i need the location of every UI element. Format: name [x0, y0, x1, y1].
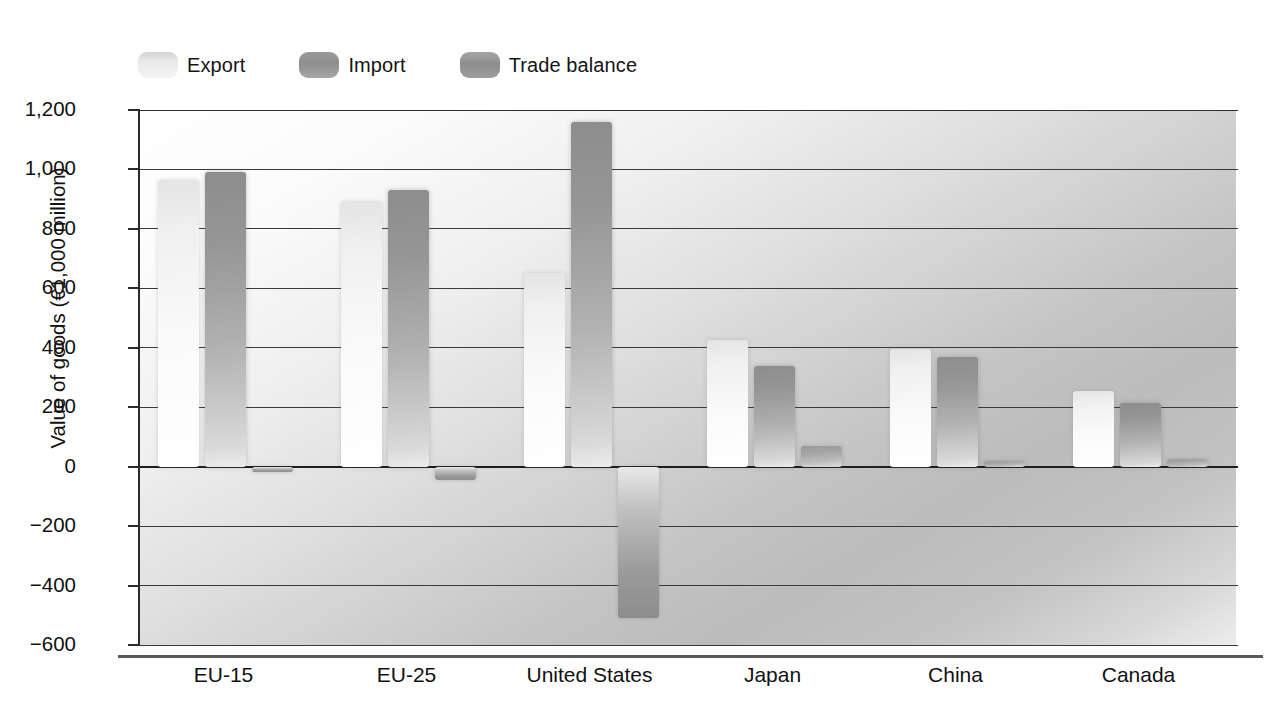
gridline-1200: [140, 110, 1238, 112]
gridline--200: [140, 526, 1238, 527]
legend-item-trade-balance: Trade balance: [460, 48, 691, 82]
bar-export-eu-25: [341, 202, 382, 467]
legend-item-import: Import: [299, 48, 459, 82]
bar-balance-japan: [801, 446, 842, 467]
y-axis-label: 600: [0, 275, 76, 299]
gridline-1000: [140, 169, 1238, 170]
y-axis-label: 1,200: [0, 97, 76, 121]
bar-balance-china: [984, 461, 1025, 467]
y-axis-label: 1,000: [0, 156, 76, 180]
y-axis-label: 0: [0, 454, 76, 478]
trade-balance-swatch-icon: [460, 52, 500, 78]
bar-import-eu-25: [388, 190, 429, 466]
plot-area: 1,2001,0008006004002000−200−400−600: [138, 110, 1236, 645]
y-axis-label: 400: [0, 335, 76, 359]
bar-import-japan: [754, 366, 795, 467]
bar-balance-united-states: [618, 467, 659, 619]
gridline-400: [140, 347, 1238, 348]
x-axis-label-eu-15: EU-15: [194, 663, 254, 687]
gridline-800: [140, 228, 1238, 229]
x-axis-label-japan: Japan: [744, 663, 801, 687]
import-swatch-icon: [299, 52, 339, 78]
bar-export-japan: [707, 340, 748, 466]
y-axis-label: −400: [0, 573, 76, 597]
x-axis-label-united-states: United States: [526, 663, 652, 687]
y-tick-0: [128, 466, 140, 468]
x-axis-label-china: China: [928, 663, 983, 687]
bar-import-united-states: [571, 122, 612, 467]
y-axis-label: 800: [0, 216, 76, 240]
legend-label-export: Export: [187, 54, 245, 77]
x-axis-line: [118, 655, 1263, 658]
chart-legend: Export Import Trade balance: [138, 48, 691, 82]
bar-import-eu-15: [205, 172, 246, 466]
y-tick-800: [128, 228, 140, 230]
gridline--400: [140, 585, 1238, 586]
y-tick-200: [128, 406, 140, 408]
y-axis-label: −600: [0, 632, 76, 656]
legend-label-import: Import: [348, 54, 405, 77]
bar-balance-eu-25: [435, 467, 476, 480]
bar-import-canada: [1120, 403, 1161, 467]
bar-export-united-states: [524, 273, 565, 466]
bar-export-china: [890, 349, 931, 466]
gridline-600: [140, 288, 1238, 289]
y-axis-label: −200: [0, 513, 76, 537]
y-tick-1200: [128, 109, 140, 111]
bar-export-canada: [1073, 391, 1114, 467]
legend-item-export: Export: [138, 48, 299, 82]
bar-import-china: [937, 357, 978, 467]
bar-balance-canada: [1167, 459, 1208, 466]
x-axis-label-canada: Canada: [1102, 663, 1176, 687]
y-tick--200: [128, 525, 140, 527]
legend-label-trade-balance: Trade balance: [509, 54, 637, 77]
y-axis-label: 200: [0, 394, 76, 418]
y-tick-1000: [128, 168, 140, 170]
x-axis-label-eu-25: EU-25: [377, 663, 437, 687]
bar-balance-eu-15: [252, 467, 293, 472]
gridline--600: [140, 645, 1238, 646]
export-swatch-icon: [138, 52, 178, 78]
y-tick--600: [128, 644, 140, 646]
y-tick--400: [128, 585, 140, 587]
bar-export-eu-15: [158, 180, 199, 467]
y-tick-400: [128, 347, 140, 349]
y-tick-600: [128, 287, 140, 289]
